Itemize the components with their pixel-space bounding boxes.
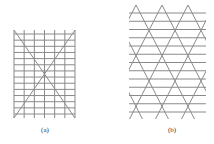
lattice-diagonal-line bbox=[0, 5, 6, 119]
diagram-canvas bbox=[0, 0, 214, 144]
caption-b: (b) bbox=[157, 126, 187, 134]
figure-a-grid bbox=[14, 30, 75, 118]
lattice-diagonal-line bbox=[208, 5, 214, 119]
lattice-diagonal-line bbox=[0, 5, 12, 119]
caption-a: (a) bbox=[30, 126, 60, 134]
lattice-diagonal-line bbox=[78, 5, 136, 119]
